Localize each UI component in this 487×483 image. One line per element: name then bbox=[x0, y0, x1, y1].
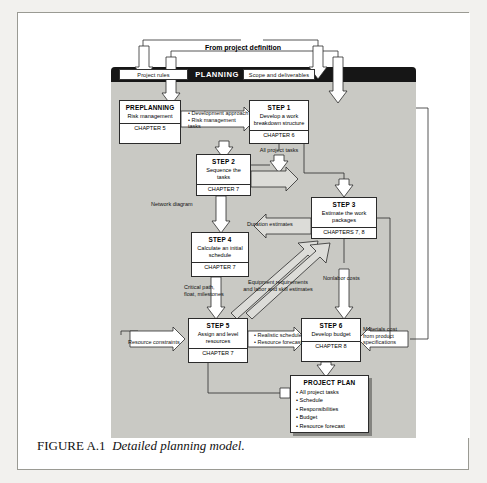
box-preplanning-title: PREPLANNING bbox=[120, 101, 180, 112]
box-step-1-chapter: CHAPTER 6 bbox=[250, 130, 308, 140]
from-project-definition-label: From project definition bbox=[168, 44, 318, 51]
figure-caption-text: Detailed planning model. bbox=[112, 438, 245, 453]
box-step-3-chapter: CHAPTERS 7, 8 bbox=[312, 227, 376, 237]
label-realistic-schedule: • Realistic schedule • Resource forecast bbox=[254, 332, 306, 345]
box-preplanning-chapter: CHAPTER 5 bbox=[120, 123, 180, 133]
box-step-6-title: STEP 6 bbox=[302, 319, 360, 330]
figure-page: .thin{fill:none;stroke:#2b2b2b;stroke-wi… bbox=[0, 0, 487, 483]
box-step-6-chapter: CHAPTER 8 bbox=[302, 341, 360, 351]
project-plan-list: All project tasks Schedule Responsibilit… bbox=[291, 388, 368, 430]
label-resource-constraints: Resource constraints bbox=[128, 339, 184, 346]
tab-project-rules[interactable]: Project rules bbox=[119, 69, 188, 80]
box-preplanning[interactable]: PREPLANNING Risk management CHAPTER 5 bbox=[119, 100, 181, 144]
project-plan-title: PROJECT PLAN bbox=[291, 376, 368, 386]
label-equipment-requirements: Equipment requirements and labor and ski… bbox=[234, 279, 322, 292]
box-step-2-title: STEP 2 bbox=[197, 155, 250, 166]
diagram-canvas: .thin{fill:none;stroke:#2b2b2b;stroke-wi… bbox=[18, 13, 470, 438]
figure-frame: .thin{fill:none;stroke:#2b2b2b;stroke-wi… bbox=[17, 12, 469, 470]
box-step-6[interactable]: STEP 6 Develop budget CHAPTER 8 bbox=[301, 318, 361, 362]
label-development-approach: • Development approach • Risk management… bbox=[188, 110, 250, 130]
box-step-3-title: STEP 3 bbox=[312, 198, 376, 209]
label-nonlabor-costs: Nonlabor costs bbox=[323, 275, 375, 282]
box-step-1[interactable]: STEP 1 Develop a work breakdown structur… bbox=[249, 100, 309, 144]
tab-scope-and-deliverables[interactable]: Scope and deliverables bbox=[243, 69, 315, 80]
label-all-project-tasks: All project tasks bbox=[247, 147, 311, 154]
planning-panel-title: PLANNING bbox=[188, 68, 246, 81]
list-item: All project tasks bbox=[296, 388, 368, 396]
box-step-6-desc: Develop budget bbox=[302, 330, 360, 340]
box-preplanning-desc: Risk management bbox=[120, 112, 180, 122]
box-step-5-chapter: CHAPTER 7 bbox=[189, 348, 247, 358]
box-step-2-desc: Sequence the tasks bbox=[197, 166, 250, 183]
box-step-3[interactable]: STEP 3 Estimate the work packages CHAPTE… bbox=[311, 197, 377, 239]
list-item: Budget bbox=[296, 413, 368, 421]
box-step-4[interactable]: STEP 4 Calculate an initial schedule CHA… bbox=[191, 232, 249, 277]
box-step-1-title: STEP 1 bbox=[250, 101, 308, 112]
box-step-2[interactable]: STEP 2 Sequence the tasks CHAPTER 7 bbox=[196, 154, 251, 196]
label-duration-estimates: Duration estimates bbox=[247, 221, 301, 228]
list-item: Resource forecast bbox=[296, 422, 368, 430]
box-step-5[interactable]: STEP 5 Assign and level resources CHAPTE… bbox=[188, 318, 248, 363]
box-step-4-desc: Calculate an initial schedule bbox=[192, 244, 248, 261]
box-step-5-title: STEP 5 bbox=[189, 319, 247, 330]
box-step-3-desc: Estimate the work packages bbox=[312, 209, 376, 226]
label-critical-path: Critical path, float, milestones bbox=[184, 284, 232, 297]
label-network-diagram: Network diagram bbox=[151, 201, 209, 208]
box-step-4-chapter: CHAPTER 7 bbox=[192, 262, 248, 272]
figure-caption-number: FIGURE A.1 bbox=[37, 438, 106, 453]
box-step-5-desc: Assign and level resources bbox=[189, 330, 247, 347]
box-step-4-title: STEP 4 bbox=[192, 233, 248, 244]
box-project-plan[interactable]: PROJECT PLAN All project tasks Schedule … bbox=[290, 375, 369, 433]
box-step-2-chapter: CHAPTER 7 bbox=[197, 184, 250, 194]
list-item: Schedule bbox=[296, 396, 368, 404]
list-item: Responsibilities bbox=[296, 405, 368, 413]
box-step-1-desc: Develop a work breakdown structure bbox=[250, 112, 308, 129]
figure-caption: FIGURE A.1 Detailed planning model. bbox=[17, 438, 469, 454]
label-materials-cost: Materials cost from product specificatio… bbox=[363, 326, 411, 346]
